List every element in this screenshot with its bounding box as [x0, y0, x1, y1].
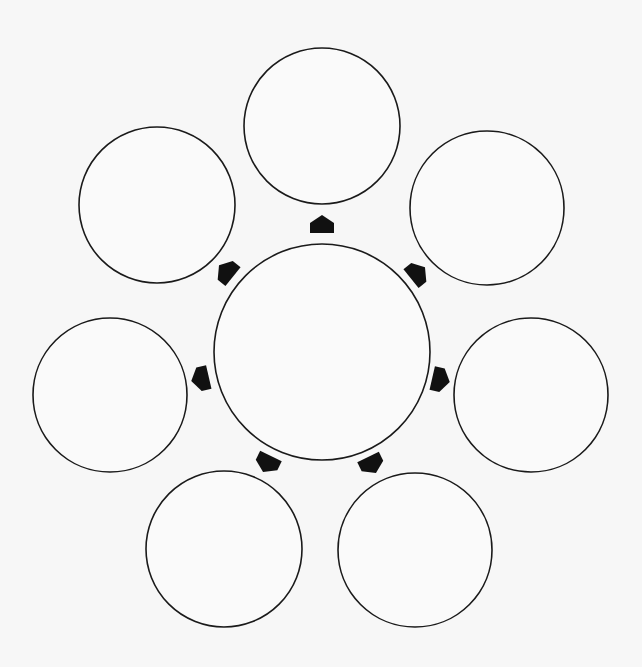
radial-diagram: [0, 0, 642, 667]
satellite-circle-bottom-right: [338, 473, 492, 627]
diagram-canvas: [0, 0, 642, 667]
arrow-top-right-icon: [403, 258, 432, 288]
hub-circle: [214, 244, 430, 460]
satellite-circle-right: [454, 318, 608, 472]
satellite-circle-top-left: [79, 127, 235, 283]
arrow-right-icon: [430, 366, 453, 393]
satellite-circle-top-right: [410, 131, 564, 285]
arrow-bottom-left-icon: [252, 451, 281, 478]
arrow-top-icon: [310, 215, 334, 233]
satellite-circle-bottom-left: [146, 471, 302, 627]
arrow-bottom-right-icon: [357, 452, 386, 479]
nodes-layer: [33, 48, 608, 627]
arrow-left-icon: [189, 365, 212, 392]
arrow-top-left-icon: [211, 256, 240, 286]
satellite-circle-left: [33, 318, 187, 472]
satellite-circle-top: [244, 48, 400, 204]
